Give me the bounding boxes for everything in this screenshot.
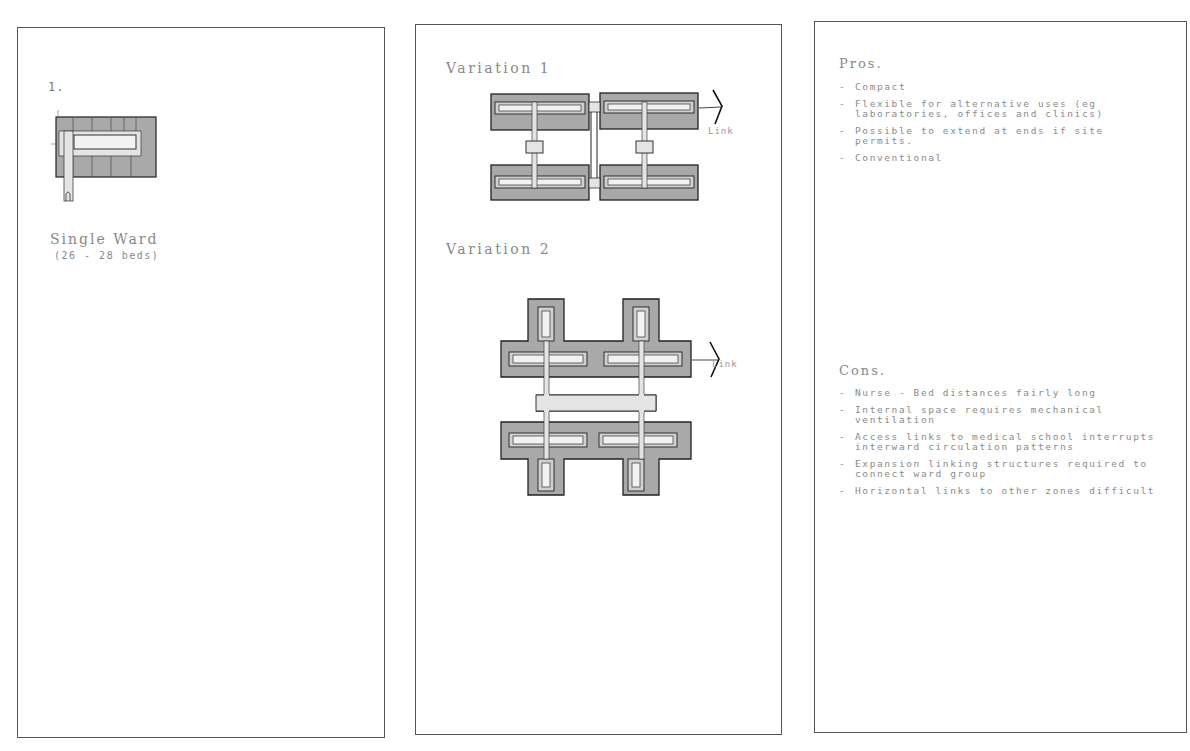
variation-2-plan-diagram (496, 295, 736, 495)
pros-item: Possible to extend at ends if site permi… (839, 126, 1169, 146)
option-number: 1. (48, 80, 64, 94)
ward-title: Single Ward (50, 231, 158, 247)
variation-2-title: Variation 2 (446, 241, 551, 257)
variation-1-title: Variation 1 (446, 60, 551, 76)
variation-1-plan-diagram (481, 88, 741, 203)
cons-item: Access links to medical school interrupt… (839, 432, 1169, 452)
single-ward-plan-diagram (51, 110, 161, 210)
pros-heading: Pros. (839, 56, 883, 71)
pros-list: Compact Flexible for alternative uses (e… (839, 82, 1169, 170)
cons-item: Horizontal links to other zones difficul… (839, 486, 1169, 496)
variations-panel: Variation 1 Link Variation 2 (415, 24, 782, 735)
variation-2-link-label: Link (712, 359, 738, 369)
cons-heading: Cons. (839, 363, 886, 378)
pros-item: Flexible for alternative uses (eg labora… (839, 99, 1169, 119)
ward-capacity: (26 - 28 beds) (54, 250, 159, 261)
cons-list: Nurse - Bed distances fairly long Intern… (839, 388, 1169, 503)
variation-1-link-label: Link (708, 126, 734, 136)
cons-item: Expansion linking structures required to… (839, 459, 1169, 479)
cons-item: Internal space requires mechanical venti… (839, 405, 1169, 425)
evaluation-panel: Pros. Compact Flexible for alternative u… (814, 21, 1187, 733)
cons-item: Nurse - Bed distances fairly long (839, 388, 1169, 398)
pros-item: Conventional (839, 153, 1169, 163)
pros-item: Compact (839, 82, 1169, 92)
single-ward-panel: 1. Single Ward (26 - 28 beds) (17, 27, 385, 738)
